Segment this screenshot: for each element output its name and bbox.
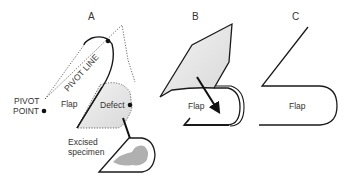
pivot-point-label-1: PIVOT <box>14 96 40 106</box>
flap-label-a: Flap <box>61 99 78 109</box>
pivot-line-label: PIVOT LINE <box>62 52 101 94</box>
panel-c-label: C <box>292 11 299 22</box>
panel-b-label: B <box>192 11 199 22</box>
defect-label: Defect <box>100 100 125 110</box>
flap-diagram: A PIVOT LINE PIVOT POINT Flap Defect Exc… <box>0 0 349 187</box>
pivot-dot-top <box>106 39 111 44</box>
flap-label-b: Flap <box>188 101 205 111</box>
panel-a: A PIVOT LINE PIVOT POINT Flap Defect Exc… <box>13 11 155 172</box>
pivot-point-dot <box>42 109 47 114</box>
pivot-point-label-2: POINT <box>13 106 39 116</box>
flap-label-c: Flap <box>289 101 306 111</box>
defect-dot <box>128 103 133 108</box>
panel-b: B Flap <box>160 11 244 126</box>
panel-a-label: A <box>88 11 95 22</box>
panel-c: C Flap <box>259 11 337 125</box>
excised-label-2: specimen <box>68 147 105 157</box>
excised-label-1: Excised <box>68 137 98 147</box>
